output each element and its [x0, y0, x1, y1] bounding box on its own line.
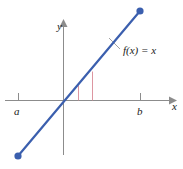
x-axis-label: x	[172, 101, 177, 112]
function-curve	[18, 11, 140, 156]
function-graph-figure: y x a b f(x) = x	[0, 0, 183, 169]
function-curve-group	[14, 7, 143, 159]
x-axis	[5, 93, 177, 105]
lower-bound-label: a	[14, 106, 20, 117]
endpoint-dot-lower-left	[14, 152, 21, 159]
y-axis	[60, 19, 68, 155]
upper-bound-label: b	[137, 106, 143, 117]
y-axis-label: y	[57, 21, 62, 32]
function-equation-label: f(x) = x	[123, 45, 156, 56]
graph-canvas	[0, 0, 183, 169]
endpoint-dot-upper-right	[136, 7, 143, 14]
